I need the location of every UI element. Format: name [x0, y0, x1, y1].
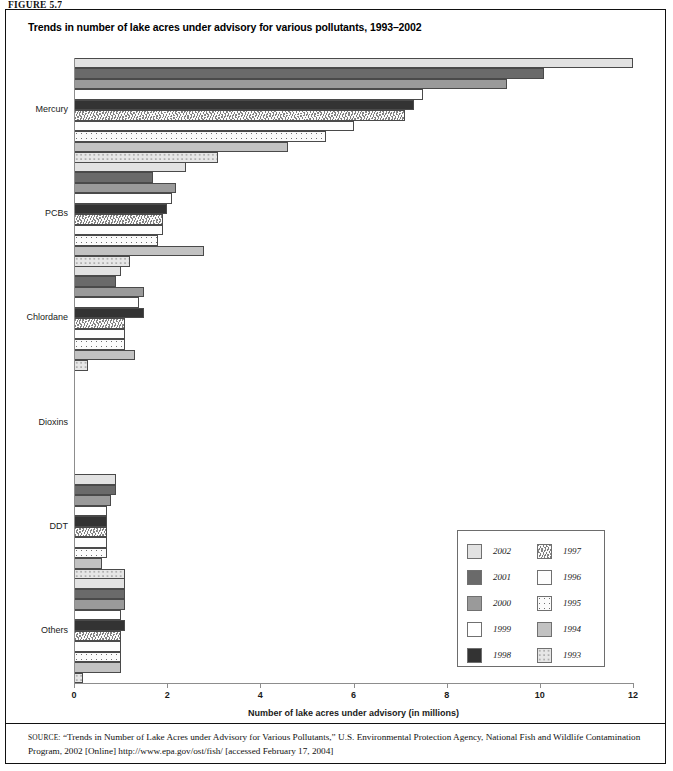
- legend-label: 1993: [563, 650, 581, 660]
- bar: [74, 506, 107, 517]
- x-tick-label: 12: [628, 690, 638, 700]
- bar: [74, 183, 176, 194]
- bar: [74, 79, 507, 90]
- category-label: PCBs: [45, 208, 68, 218]
- legend-swatch: [537, 596, 552, 611]
- legend-item[interactable]: 1994: [537, 616, 581, 642]
- legend-item[interactable]: 1998: [467, 642, 511, 668]
- bar: [74, 287, 144, 298]
- legend-label: 2000: [493, 598, 511, 608]
- category-axis-labels: MercuryPCBsChlordaneDioxinsDDTOthers: [0, 58, 68, 683]
- legend-item[interactable]: 1997: [537, 538, 581, 564]
- bar: [74, 610, 121, 621]
- bar: [74, 516, 107, 527]
- bar: [74, 142, 288, 153]
- legend-item[interactable]: 2002: [467, 538, 511, 564]
- legend-column-left: 20022001200019991998: [467, 538, 511, 668]
- x-axis-title: Number of lake acres under advisory (in …: [74, 708, 633, 718]
- bar: [74, 350, 135, 361]
- bar: [74, 172, 153, 183]
- bar: [74, 578, 125, 589]
- legend-label: 1999: [493, 624, 511, 634]
- bar: [74, 100, 414, 111]
- category-label: Chlordane: [26, 312, 68, 322]
- bar: [74, 620, 125, 631]
- x-tick: [74, 683, 75, 688]
- bar: [74, 297, 139, 308]
- bar: [74, 339, 125, 350]
- legend-label: 1995: [563, 598, 581, 608]
- legend-label: 1997: [563, 546, 581, 556]
- source-kicker: source:: [28, 733, 61, 742]
- bar: [74, 474, 116, 485]
- x-tick-label: 2: [165, 690, 170, 700]
- bar: [74, 276, 116, 287]
- x-tick-label: 0: [71, 690, 76, 700]
- legend-item[interactable]: 1995: [537, 590, 581, 616]
- bar: [74, 589, 125, 600]
- x-tick-label: 6: [351, 690, 356, 700]
- bar: [74, 548, 107, 559]
- bar: [74, 652, 121, 663]
- source-text: “Trends in Number of Lake Acres under Ad…: [28, 732, 640, 756]
- category-label: Others: [41, 625, 68, 635]
- bar: [74, 527, 107, 538]
- bar: [74, 131, 326, 142]
- legend-column-right: 19971996199519941993: [537, 538, 581, 668]
- bar: [74, 662, 121, 673]
- legend-item[interactable]: 1996: [537, 564, 581, 590]
- legend-label: 1994: [563, 624, 581, 634]
- bar: [74, 266, 121, 277]
- legend-item[interactable]: 1993: [537, 642, 581, 668]
- bar: [74, 308, 144, 319]
- bar: [74, 89, 423, 100]
- legend: 20022001200019991998 1997199619951994199…: [457, 530, 605, 667]
- bar: [74, 495, 111, 506]
- legend-swatch: [467, 648, 482, 663]
- x-tick: [260, 683, 261, 688]
- legend-item[interactable]: 1999: [467, 616, 511, 642]
- x-tick: [540, 683, 541, 688]
- x-tick-label: 10: [535, 690, 545, 700]
- x-tick: [447, 683, 448, 688]
- legend-label: 2001: [493, 572, 511, 582]
- bar: [74, 599, 125, 610]
- bar: [74, 641, 121, 652]
- bar: [74, 318, 125, 329]
- x-tick: [167, 683, 168, 688]
- bar: [74, 110, 405, 121]
- bar: [74, 537, 107, 548]
- category-label: Mercury: [35, 104, 68, 114]
- bar: [74, 58, 633, 69]
- bar: [74, 329, 125, 340]
- bar: [74, 246, 204, 257]
- x-tick-label: 4: [258, 690, 263, 700]
- bar: [74, 485, 116, 496]
- x-tick-label: 8: [444, 690, 449, 700]
- bar: [74, 225, 163, 236]
- x-tick: [633, 683, 634, 688]
- bar: [74, 121, 354, 132]
- bar: [74, 68, 544, 79]
- bar: [74, 558, 102, 569]
- legend-swatch: [467, 544, 482, 559]
- y-axis-line: [74, 58, 75, 683]
- legend-swatch: [537, 648, 552, 663]
- legend-label: 2002: [493, 546, 511, 556]
- chart-title: Trends in number of lake acres under adv…: [28, 21, 422, 33]
- source-divider: [5, 723, 666, 724]
- bar: [74, 360, 88, 371]
- bar: [74, 235, 158, 246]
- legend-label: 1998: [493, 650, 511, 660]
- legend-swatch: [537, 622, 552, 637]
- legend-swatch: [467, 622, 482, 637]
- legend-swatch: [537, 544, 552, 559]
- bar: [74, 673, 83, 684]
- bar: [74, 631, 121, 642]
- legend-item[interactable]: 2001: [467, 564, 511, 590]
- legend-swatch: [467, 596, 482, 611]
- category-label: DDT: [50, 521, 69, 531]
- legend-item[interactable]: 2000: [467, 590, 511, 616]
- category-label: Dioxins: [38, 417, 68, 427]
- source-note: source: “Trends in Number of Lake Acres …: [28, 731, 644, 758]
